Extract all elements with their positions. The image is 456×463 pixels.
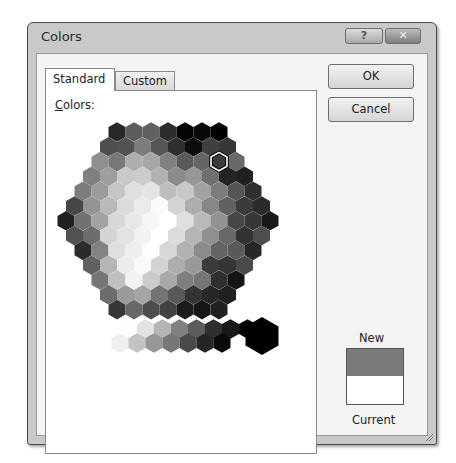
current-color-label: Current bbox=[352, 413, 395, 427]
resize-grip-icon[interactable] bbox=[424, 432, 434, 442]
tab-custom[interactable]: Custom bbox=[115, 71, 175, 91]
ok-button[interactable]: OK bbox=[328, 64, 414, 89]
new-color-label: New bbox=[359, 331, 384, 345]
current-color-swatch bbox=[346, 376, 404, 405]
colors-label: Colors: bbox=[55, 98, 95, 112]
colors-label-accelerator: C bbox=[55, 98, 63, 112]
tab-standard[interactable]: Standard bbox=[45, 68, 115, 91]
help-icon: ? bbox=[361, 29, 367, 42]
cancel-button[interactable]: Cancel bbox=[328, 97, 414, 122]
close-icon: ✕ bbox=[398, 29, 407, 42]
new-color-swatch bbox=[346, 348, 404, 376]
title-bar[interactable]: Colors ? ✕ bbox=[28, 23, 436, 53]
dialog-title: Colors bbox=[41, 29, 82, 44]
help-button[interactable]: ? bbox=[345, 28, 383, 44]
colors-label-text: olors: bbox=[63, 98, 95, 112]
close-button[interactable]: ✕ bbox=[385, 28, 421, 44]
